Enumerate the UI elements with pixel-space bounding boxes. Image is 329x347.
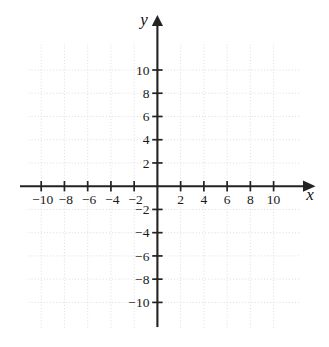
figure-background	[0, 0, 329, 347]
x-axis-tick-label: 10	[267, 192, 281, 207]
x-axis-tick-label: −6	[82, 192, 97, 207]
y-axis-tick-label: −2	[135, 202, 149, 217]
y-axis-tick-label: 6	[143, 109, 150, 124]
y-axis-tick-label: −8	[135, 272, 150, 287]
y-axis-tick-label: 4	[143, 132, 150, 147]
x-axis-label: x	[305, 185, 314, 204]
x-axis-tick-label: 4	[201, 192, 208, 207]
x-axis-tick-label: 2	[177, 192, 184, 207]
x-axis-tick-label: −10	[32, 192, 53, 207]
y-axis-tick-label: 10	[136, 63, 150, 78]
y-axis-tick-label: −10	[128, 295, 149, 310]
coordinate-plane-figure: −10−8−6−4−2246810108642−2−4−6−8−10 x y	[0, 0, 329, 347]
x-axis-tick-label: 8	[247, 192, 254, 207]
y-axis-tick-label: −4	[135, 225, 150, 240]
x-axis-tick-label: −4	[105, 192, 120, 207]
y-axis-label: y	[138, 10, 148, 29]
y-axis-tick-label: 8	[143, 86, 150, 101]
x-axis-tick-label: 6	[224, 192, 231, 207]
y-axis-tick-label: −6	[135, 249, 150, 264]
y-axis-tick-label: 2	[143, 156, 150, 171]
x-axis-tick-label: −8	[59, 192, 74, 207]
coordinate-plane-svg: −10−8−6−4−2246810108642−2−4−6−8−10 x y	[0, 0, 329, 347]
